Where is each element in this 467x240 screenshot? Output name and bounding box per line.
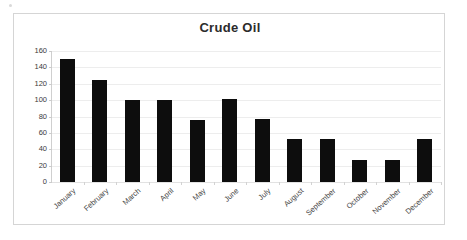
x-axis-tick: [344, 182, 345, 185]
x-axis-tick: [84, 182, 85, 185]
y-axis-tick: [49, 133, 52, 134]
y-axis-tick-label: 40: [39, 146, 47, 154]
bar-january[interactable]: [60, 59, 75, 182]
gridline: [51, 51, 441, 52]
y-axis-tick: [49, 149, 52, 150]
chart-frame: Crude Oil 160140120100806040200 JanuaryF…: [13, 13, 445, 225]
y-axis-tick: [49, 67, 52, 68]
x-axis-label-january: January: [52, 187, 77, 210]
x-axis-label-november: November: [372, 187, 403, 216]
x-axis-tick: [214, 182, 215, 185]
x-axis-tick: [311, 182, 312, 185]
x-axis-label-april: April: [159, 187, 175, 203]
x-axis-tick: [116, 182, 117, 185]
y-axis-tick: [49, 51, 52, 52]
x-axis-tick: [376, 182, 377, 185]
bar-october[interactable]: [352, 160, 367, 182]
y-axis-tick: [49, 84, 52, 85]
bar-march[interactable]: [125, 100, 140, 182]
bar-may[interactable]: [190, 120, 205, 182]
plot-area: 160140120100806040200 JanuaryFebruaryMar…: [51, 51, 441, 182]
y-axis-tick-label: 20: [39, 162, 47, 170]
y-axis-tick: [49, 117, 52, 118]
gridline: [51, 117, 441, 118]
chart-title: Crude Oil: [14, 20, 446, 35]
x-axis-tick: [279, 182, 280, 185]
bar-september[interactable]: [320, 139, 335, 182]
y-axis-tick-label: 0: [43, 178, 47, 186]
x-axis-tick: [441, 182, 442, 185]
x-axis-tick: [149, 182, 150, 185]
gridline: [51, 149, 441, 150]
gridline: [51, 133, 441, 134]
bar-august[interactable]: [287, 139, 302, 182]
x-axis-tick: [181, 182, 182, 185]
x-axis-label-october: October: [345, 187, 370, 210]
x-axis-label-may: May: [192, 187, 208, 202]
y-axis-tick-label: 100: [34, 96, 47, 104]
x-axis-label-june: June: [223, 187, 240, 203]
y-axis-tick-label: 60: [39, 129, 47, 137]
bar-december[interactable]: [417, 139, 432, 182]
gridline: [51, 166, 441, 167]
x-axis-label-march: March: [122, 187, 143, 207]
gridline: [51, 84, 441, 85]
bar-june[interactable]: [222, 99, 237, 182]
x-axis-label-february: February: [82, 187, 109, 213]
y-axis-tick-label: 80: [39, 113, 47, 121]
y-axis-tick: [49, 182, 52, 183]
y-axis-tick-label: 140: [34, 64, 47, 72]
gridline: [51, 67, 441, 68]
y-axis-tick: [49, 100, 52, 101]
bar-july[interactable]: [255, 119, 270, 182]
bar-april[interactable]: [157, 100, 172, 182]
scan-artifact: [9, 4, 12, 7]
x-axis-label-august: August: [282, 187, 304, 208]
bar-november[interactable]: [385, 160, 400, 182]
x-axis-label-september: September: [305, 187, 337, 217]
x-axis-label-december: December: [404, 187, 435, 216]
y-axis-tick-label: 120: [34, 80, 47, 88]
x-axis-label-july: July: [257, 187, 272, 202]
gridline: [51, 100, 441, 101]
y-axis-tick: [49, 166, 52, 167]
x-axis-tick: [409, 182, 410, 185]
bar-february[interactable]: [92, 80, 107, 182]
y-axis-tick-label: 160: [34, 47, 47, 55]
x-axis-tick: [246, 182, 247, 185]
